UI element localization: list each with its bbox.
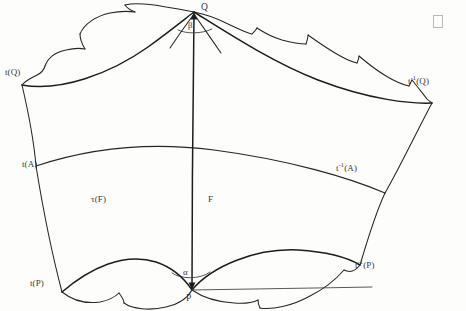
label-t-A: t(A) — [22, 160, 37, 169]
scallop-chain-bottom — [62, 265, 360, 309]
lower-geodesic-arcs — [62, 250, 360, 292]
label-tinv-A-arg: (A) — [344, 163, 357, 173]
label-angle-beta: β — [188, 21, 193, 30]
label-tinv-Q-arg: (Q) — [416, 76, 429, 86]
label-vertex-P: P — [186, 294, 191, 304]
label-region-F: F — [208, 195, 213, 204]
scallop-chain-top-right — [194, 12, 432, 103]
corner-rectangle-mark — [433, 15, 443, 28]
figure-canvas: .ink { fill:none; stroke:#262626; stroke… — [0, 0, 466, 311]
label-tinv-A: t-1(A) — [336, 164, 357, 173]
label-vertex-Q: Q — [201, 3, 208, 13]
label-t-P: t(P) — [30, 279, 44, 288]
baseline-wisp — [192, 287, 372, 290]
label-angle-alpha: α — [183, 268, 188, 277]
label-tinv-P-arg: (P) — [363, 260, 374, 270]
upper-geodesic-arcs — [22, 12, 432, 103]
label-tinv-P: t-1(P) — [355, 261, 375, 270]
label-region-tau-F: τ(F) — [91, 195, 106, 204]
label-tinv-Q: t-1(Q) — [408, 77, 429, 86]
angle-markers — [170, 14, 221, 278]
scallop-chain-top-left — [22, 4, 194, 85]
central-geodesic-QP — [189, 12, 198, 290]
label-t-Q: t(Q) — [5, 68, 20, 77]
hyperbolic-diagram-svg: .ink { fill:none; stroke:#262626; stroke… — [0, 0, 466, 311]
horizontal-arc-A — [36, 147, 385, 193]
